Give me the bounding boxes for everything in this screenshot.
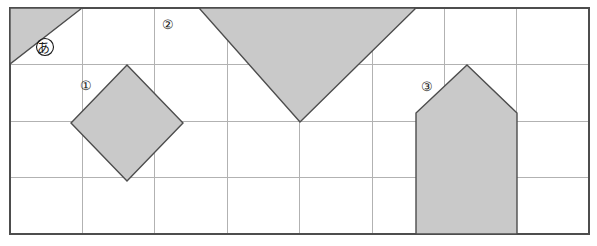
diagram-canvas: あ ① ② ③ bbox=[0, 0, 597, 246]
label-1: ① bbox=[80, 79, 92, 92]
grid-diagram-svg bbox=[0, 0, 597, 246]
label-3: ③ bbox=[421, 80, 433, 93]
label-a: あ bbox=[37, 41, 50, 54]
label-2: ② bbox=[162, 18, 174, 31]
